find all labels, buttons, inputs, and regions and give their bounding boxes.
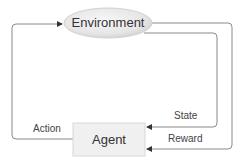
action-label: Action bbox=[33, 124, 61, 134]
reward-label: Reward bbox=[168, 134, 202, 144]
action-edge bbox=[12, 24, 73, 139]
environment-label: Environment bbox=[64, 16, 152, 29]
reward-edge bbox=[147, 23, 232, 149]
state-label: State bbox=[174, 111, 197, 121]
agent-label: Agent bbox=[73, 133, 145, 146]
